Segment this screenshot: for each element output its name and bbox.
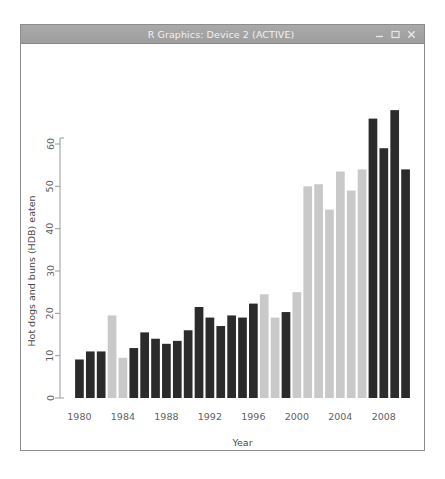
bar [108, 315, 117, 398]
bar [75, 359, 84, 398]
y-tick-label: 60 [45, 138, 56, 150]
bars-group [75, 110, 410, 398]
bar-chart: 0102030405060 19801984198819921996200020… [21, 44, 424, 450]
plot-canvas: 0102030405060 19801984198819921996200020… [21, 44, 424, 450]
x-tick-label: 2008 [372, 411, 396, 422]
r-graphics-window: R Graphics: Device 2 (ACTIVE) [20, 24, 425, 451]
y-axis-title: Hot dogs and buns (HDB) eaten [26, 195, 37, 346]
x-tick-label: 2004 [328, 411, 352, 422]
bar [314, 184, 323, 398]
bar [347, 191, 356, 398]
bar [184, 330, 193, 398]
y-tick-label: 10 [45, 350, 56, 362]
bar [336, 172, 345, 398]
bar [379, 148, 388, 398]
bar [325, 210, 334, 398]
x-axis-title: Year [231, 437, 252, 448]
bar [206, 318, 215, 398]
y-tick-label: 50 [45, 180, 56, 192]
bar [303, 186, 312, 398]
x-axis: 19801984198819921996200020042008 [67, 411, 396, 422]
x-tick-label: 1988 [154, 411, 178, 422]
bar [293, 292, 302, 398]
window-controls [375, 30, 424, 39]
bar [369, 119, 378, 398]
bar [162, 344, 171, 398]
x-tick-label: 1992 [198, 411, 222, 422]
bar [97, 351, 106, 398]
bar [271, 318, 280, 398]
x-tick-label: 2000 [285, 411, 309, 422]
y-tick-label: 30 [45, 265, 56, 277]
y-axis: 0102030405060 [45, 138, 65, 401]
window-titlebar[interactable]: R Graphics: Device 2 (ACTIVE) [21, 25, 424, 44]
bar [227, 315, 236, 398]
bar [129, 348, 138, 398]
bar [282, 312, 291, 398]
y-axis-line [60, 138, 64, 398]
maximize-icon[interactable] [391, 30, 400, 39]
bar [119, 358, 128, 398]
x-tick-label: 1984 [111, 411, 135, 422]
bar [249, 304, 258, 398]
bar [238, 318, 247, 398]
window-title: R Graphics: Device 2 (ACTIVE) [21, 29, 375, 40]
bar [173, 341, 182, 398]
bar [390, 110, 399, 398]
y-tick-label: 40 [45, 223, 56, 235]
y-tick-label: 20 [45, 307, 56, 319]
x-tick-label: 1996 [241, 411, 265, 422]
bar [151, 339, 160, 398]
bar [260, 294, 269, 398]
bar [401, 169, 410, 398]
bar [358, 169, 367, 398]
minimize-icon[interactable] [375, 30, 384, 39]
bar [86, 351, 95, 398]
x-tick-label: 1980 [67, 411, 91, 422]
bar [216, 326, 225, 398]
bar [140, 332, 149, 398]
bar [195, 307, 204, 398]
y-tick-label: 0 [45, 395, 56, 401]
close-icon[interactable] [407, 30, 416, 39]
